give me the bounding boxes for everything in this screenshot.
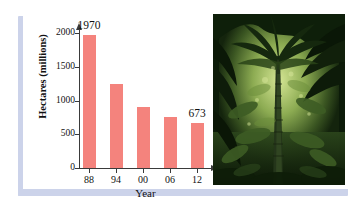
bar-00: [137, 11, 150, 168]
bars-layer: [23, 11, 213, 168]
x-axis-tick-label: 00: [130, 175, 156, 185]
x-axis-tick: [116, 168, 117, 173]
bar-rect: [137, 107, 150, 168]
x-axis-tick-label: 88: [76, 175, 102, 185]
figure-panel: Hectares (millions) 0500100015002000 889…: [0, 0, 360, 201]
x-axis-title: Year: [79, 187, 212, 199]
x-axis-tick-label: 94: [103, 175, 129, 185]
x-axis-tick: [170, 168, 171, 173]
x-axis-tick-label: 12: [184, 175, 210, 185]
bar-rect: [164, 117, 177, 168]
x-axis-tick: [143, 168, 144, 173]
y-axis-tick: [75, 168, 80, 169]
bar-06: [164, 11, 177, 168]
bar-94: [110, 11, 123, 168]
bar-12: [191, 11, 204, 168]
bar-value-label: 1970: [67, 20, 111, 32]
x-axis-tick: [197, 168, 198, 173]
bar-chart: Hectares (millions) 0500100015002000 889…: [23, 11, 213, 189]
bar-rect: [191, 123, 204, 168]
bar-88: [83, 11, 96, 168]
bar-rect: [110, 84, 123, 168]
x-axis-line: [79, 168, 212, 169]
rainforest-photograph: [213, 14, 345, 185]
x-axis-tick: [89, 168, 90, 173]
x-axis-tick-label: 06: [157, 175, 183, 185]
bar-rect: [83, 35, 96, 168]
